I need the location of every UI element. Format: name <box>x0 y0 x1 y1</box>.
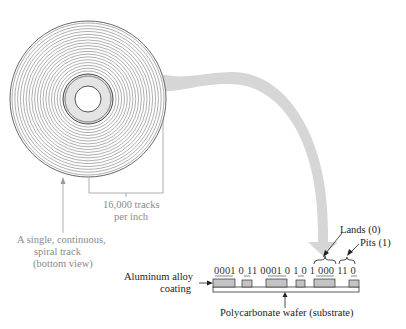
spiral-track-label-line1: A single, continuous, <box>17 234 106 246</box>
bit-sequence: 0001 0 11 0001 0 1 0 1 000 11 0 <box>214 265 356 276</box>
aluminum-coating-label-line1: Aluminum alloy <box>124 271 193 283</box>
tracks-per-inch-label-line1: 16,000 tracks <box>103 199 160 211</box>
aluminum-coating-label-line2: coating <box>160 283 191 295</box>
lands-label: Lands (0) <box>340 224 381 236</box>
compact-disk <box>10 21 166 177</box>
magnify-arrow <box>160 72 338 256</box>
tracks-per-inch-label-line2: per inch <box>114 211 148 223</box>
spiral-track-label-line2: spiral track <box>34 246 81 258</box>
spiral-track-label-line3: (bottom view) <box>33 258 93 270</box>
substrate-label: Polycarbonate wafer (substrate) <box>220 307 354 319</box>
cd-diagram-canvas <box>0 0 406 329</box>
cd-cross-section <box>213 276 359 292</box>
pits-label: Pits (1) <box>360 237 391 249</box>
